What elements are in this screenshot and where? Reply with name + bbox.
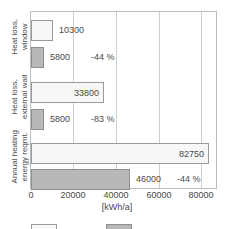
x-tick-20000: 20000 xyxy=(60,190,85,200)
bar-value-window-before: 10300 xyxy=(59,20,84,41)
x-axis-title: [kWh/a] xyxy=(0,202,234,212)
legend-swatch-after xyxy=(106,224,132,229)
category-label-annual-heating-energy-reqmt: Annual heating energy reqmt. xyxy=(0,134,30,184)
category-label-line1: Annual heating xyxy=(10,122,20,192)
bar-chart: Heat loss, window Heat loss, external wa… xyxy=(0,0,234,229)
x-tick-40000: 40000 xyxy=(103,190,128,200)
x-tick-60000: 60000 xyxy=(146,190,171,200)
bar-external-wall-after xyxy=(31,109,44,130)
bar-external-wall-before: 33800 xyxy=(31,82,104,103)
bar-value-external-wall-before: 33800 xyxy=(74,83,99,104)
bar-window-before xyxy=(31,20,53,41)
x-tick-0: 0 xyxy=(28,190,33,200)
category-label-heat-loss-external-wall: Heat loss, external wall xyxy=(0,76,30,122)
reduction-label-window: -44 % xyxy=(91,47,115,68)
bar-value-window-after: 5800 xyxy=(50,47,70,68)
category-label-heat-loss-window: Heat loss, window xyxy=(0,14,30,60)
plot-area: 10300 5800 -44 % 33800 5800 -83 % 82750 … xyxy=(30,11,217,189)
bar-annual-heating-before: 82750 xyxy=(31,143,209,164)
bar-value-external-wall-after: 5800 xyxy=(50,109,70,130)
bar-value-annual-heating-before: 82750 xyxy=(179,144,204,165)
bar-value-annual-heating-after: 46000 xyxy=(136,169,161,190)
bar-window-after xyxy=(31,47,44,68)
legend-swatch-before xyxy=(31,224,57,229)
bar-annual-heating-after xyxy=(31,169,130,190)
category-label-line2: energy reqmt. xyxy=(20,122,30,192)
reduction-label-external-wall: -83 % xyxy=(91,109,115,130)
x-tick-80000: 80000 xyxy=(188,190,213,200)
reduction-label-annual-heating: -44 % xyxy=(177,169,201,190)
